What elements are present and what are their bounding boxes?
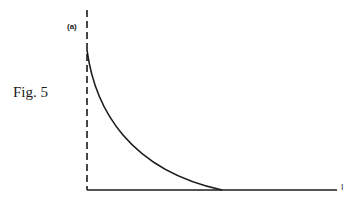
decay-diagram: [0, 0, 357, 203]
decay-curve: [87, 50, 222, 190]
